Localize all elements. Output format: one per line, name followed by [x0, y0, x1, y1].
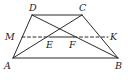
- label-K: K: [109, 31, 118, 42]
- label-A: A: [3, 60, 11, 71]
- label-F: F: [68, 39, 76, 50]
- label-D: D: [28, 2, 37, 13]
- label-M: M: [4, 31, 15, 42]
- segments: [13, 15, 118, 58]
- label-E: E: [45, 39, 53, 50]
- label-B: B: [114, 60, 122, 71]
- trapezoid-diagram: A B C D M K E F: [0, 0, 128, 83]
- label-C: C: [79, 2, 87, 13]
